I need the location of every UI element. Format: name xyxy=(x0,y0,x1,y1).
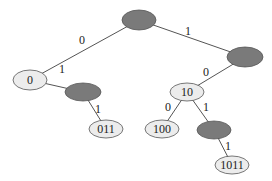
edges-layer: 01110011 xyxy=(30,20,245,165)
edge-label: 1 xyxy=(203,100,209,114)
tree-node-n1011: 1011 xyxy=(215,156,249,174)
edge-label: 0 xyxy=(203,65,209,79)
tree-node-n10: 10 xyxy=(170,83,204,101)
tree-node-root xyxy=(122,10,156,30)
tree-node-n1 xyxy=(227,47,263,67)
node-label: 1011 xyxy=(220,158,244,172)
tree-node-n01 xyxy=(65,83,101,101)
internal-node-ellipse xyxy=(122,10,156,30)
internal-node-ellipse xyxy=(197,121,231,139)
node-label: 100 xyxy=(153,122,171,136)
tree-node-n100: 100 xyxy=(145,120,179,138)
edge-label: 1 xyxy=(95,102,101,116)
tree-node-n0: 0 xyxy=(13,70,47,90)
edge-label: 1 xyxy=(225,139,231,153)
trie-diagram: 01110011 0011101001011 xyxy=(0,0,272,181)
node-label: 10 xyxy=(181,85,193,99)
tree-node-n011: 011 xyxy=(89,120,123,138)
edge-root-n0 xyxy=(30,20,139,80)
edge-root-n1 xyxy=(139,20,245,57)
edge-label: 1 xyxy=(59,62,65,76)
node-label: 0 xyxy=(27,73,33,87)
tree-node-n101 xyxy=(197,121,231,139)
edge-label: 0 xyxy=(79,33,85,47)
edge-label: 1 xyxy=(185,24,191,38)
internal-node-ellipse xyxy=(65,83,101,101)
edge-label: 0 xyxy=(165,100,171,114)
internal-node-ellipse xyxy=(227,47,263,67)
node-label: 011 xyxy=(97,122,115,136)
